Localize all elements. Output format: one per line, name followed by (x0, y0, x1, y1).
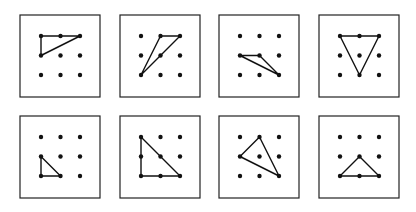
triangle-outline (240, 56, 279, 76)
geoboard-panel-6 (120, 116, 200, 198)
grid-dot (357, 135, 361, 139)
geoboard-panel-1 (20, 15, 100, 97)
grid-dot (277, 174, 281, 178)
grid-dot (39, 53, 43, 57)
grid-dot (277, 154, 281, 158)
grid-dot (257, 135, 261, 139)
grid-dot (39, 154, 43, 158)
grid-dot (377, 135, 381, 139)
grid-dot (178, 73, 182, 77)
triangle-outline (41, 36, 80, 56)
grid-dot (39, 174, 43, 178)
grid-dot (158, 73, 162, 77)
grid-dot (78, 53, 82, 57)
geoboard-panel-4 (319, 15, 399, 97)
grid-dot (377, 154, 381, 158)
grid-dot (257, 53, 261, 57)
grid-dot (78, 154, 82, 158)
geoboard-panel-2 (120, 15, 200, 97)
grid-dot (357, 174, 361, 178)
grid-dot (158, 154, 162, 158)
grid-dot (178, 174, 182, 178)
grid-dot (58, 154, 62, 158)
grid-dot (78, 135, 82, 139)
grid-dot (357, 73, 361, 77)
grid-dot (158, 135, 162, 139)
geoboard-triangles-diagram (0, 0, 416, 212)
grid-dot (377, 73, 381, 77)
grid-dot (178, 34, 182, 38)
triangle-outline (340, 157, 379, 177)
geoboard-panel-7 (219, 116, 299, 198)
grid-dot (78, 73, 82, 77)
grid-dot (139, 135, 143, 139)
grid-dot (238, 154, 242, 158)
grid-dot (277, 34, 281, 38)
grid-dot (139, 174, 143, 178)
grid-dot (338, 174, 342, 178)
grid-dot (277, 53, 281, 57)
grid-dot (78, 34, 82, 38)
grid-dot (257, 73, 261, 77)
grid-dot (257, 34, 261, 38)
grid-dot (338, 154, 342, 158)
grid-dot (158, 53, 162, 57)
grid-dot (139, 73, 143, 77)
grid-dot (39, 34, 43, 38)
grid-dot (377, 53, 381, 57)
grid-dot (238, 73, 242, 77)
grid-dot (357, 34, 361, 38)
grid-dot (338, 73, 342, 77)
grid-dot (377, 34, 381, 38)
grid-dot (257, 174, 261, 178)
grid-dot (257, 154, 261, 158)
grid-dot (58, 174, 62, 178)
grid-dot (338, 34, 342, 38)
grid-dot (338, 53, 342, 57)
grid-dot (357, 53, 361, 57)
geoboard-panel-8 (319, 116, 399, 198)
grid-dot (39, 73, 43, 77)
geoboard-panel-5 (20, 116, 100, 198)
grid-dot (58, 135, 62, 139)
grid-dot (39, 135, 43, 139)
grid-dot (139, 154, 143, 158)
triangle-outline (41, 157, 61, 177)
grid-dot (178, 53, 182, 57)
grid-dot (238, 34, 242, 38)
grid-dot (58, 34, 62, 38)
grid-dot (139, 34, 143, 38)
grid-dot (377, 174, 381, 178)
grid-dot (357, 154, 361, 158)
grid-dot (238, 53, 242, 57)
geoboard-panel-3 (219, 15, 299, 97)
grid-dot (58, 53, 62, 57)
grid-dot (158, 34, 162, 38)
grid-dot (58, 73, 62, 77)
grid-dot (277, 73, 281, 77)
grid-dot (238, 174, 242, 178)
grid-dot (238, 135, 242, 139)
grid-dot (178, 135, 182, 139)
grid-dot (158, 174, 162, 178)
grid-dot (78, 174, 82, 178)
grid-dot (178, 154, 182, 158)
grid-dot (139, 53, 143, 57)
grid-dot (277, 135, 281, 139)
grid-dot (338, 135, 342, 139)
